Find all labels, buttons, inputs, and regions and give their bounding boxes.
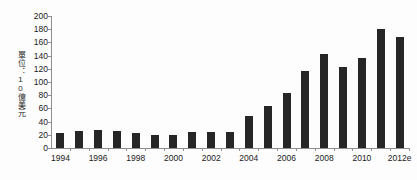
x-axis-tick-mark: [221, 148, 222, 151]
x-axis-tick-label: 2004: [239, 153, 258, 164]
bar: [264, 106, 272, 148]
bar: [358, 58, 366, 148]
bar: [396, 37, 404, 148]
bar: [320, 54, 328, 148]
x-axis-tick-label: 2010: [352, 153, 371, 164]
x-axis-tick-mark: [409, 148, 410, 151]
bar: [207, 132, 215, 149]
x-axis-tick-mark: [352, 148, 353, 151]
bar: [56, 133, 64, 148]
y-axis-tick-label: 60: [24, 103, 48, 113]
bar: [188, 132, 196, 148]
y-axis-tick-label: 120: [24, 64, 48, 74]
x-axis-tick-mark: [164, 148, 165, 151]
x-axis-tick-label: 2008: [315, 153, 334, 164]
bar: [301, 71, 309, 148]
x-axis-tick-mark: [89, 148, 90, 151]
x-axis-tick-mark: [315, 148, 316, 151]
y-axis-tick-label: 100: [24, 77, 48, 87]
x-axis-tick-label: 2012e: [388, 153, 412, 164]
bar: [75, 131, 83, 148]
x-axis-tick-label: 1994: [51, 153, 70, 164]
x-axis-tick-mark: [126, 148, 127, 151]
x-axis-tick-mark: [108, 148, 109, 151]
plot-area: [51, 16, 409, 148]
x-axis-tick-label: 1998: [126, 153, 145, 164]
x-axis-tick-mark: [202, 148, 203, 151]
x-axis-tick-label-group: 1994199619982000200220042006200820102012…: [51, 153, 417, 167]
bar: [132, 133, 140, 148]
bar: [245, 116, 253, 148]
bar: [94, 130, 102, 148]
x-axis-tick-label: 1996: [89, 153, 108, 164]
x-axis-tick-mark: [296, 148, 297, 151]
x-axis-tick-label: 2002: [202, 153, 221, 164]
y-axis-tick-label: 20: [24, 130, 48, 140]
y-axis-tick-label: 40: [24, 117, 48, 127]
x-axis-line: [51, 148, 409, 149]
x-axis-tick-mark: [334, 148, 335, 151]
y-axis-tick-label: 0: [24, 143, 48, 153]
y-axis-tick-label: 160: [24, 37, 48, 47]
y-axis-title: 單位：10億美元: [11, 38, 25, 130]
x-axis-tick-mark: [70, 148, 71, 151]
x-axis-tick-mark: [390, 148, 391, 151]
x-axis-tick-mark: [371, 148, 372, 151]
bar: [226, 132, 234, 149]
x-axis-tick-mark: [258, 148, 259, 151]
x-axis-tick-label: 2000: [164, 153, 183, 164]
y-axis-tick-label: 80: [24, 90, 48, 100]
bar: [283, 93, 291, 148]
bar: [169, 135, 177, 148]
x-axis-tick-label: 2006: [277, 153, 296, 164]
y-axis-tick-label-group: 200180160140120100806040200: [24, 11, 48, 153]
x-axis-tick-mark: [239, 148, 240, 151]
x-axis-tick-mark: [145, 148, 146, 151]
bar-chart-figure: 單位：10億美元 200180160140120100806040200 199…: [0, 0, 417, 180]
y-axis-tick-mark: [48, 148, 51, 149]
y-axis-tick-label: 140: [24, 51, 48, 61]
y-axis-tick-label: 200: [24, 11, 48, 21]
x-axis-tick-mark: [277, 148, 278, 151]
x-axis-tick-mark: [183, 148, 184, 151]
bar: [151, 135, 159, 148]
bar: [377, 29, 385, 148]
y-axis-tick-label: 180: [24, 24, 48, 34]
bar: [113, 131, 121, 148]
bar-series: [51, 16, 409, 148]
bar: [339, 67, 347, 148]
